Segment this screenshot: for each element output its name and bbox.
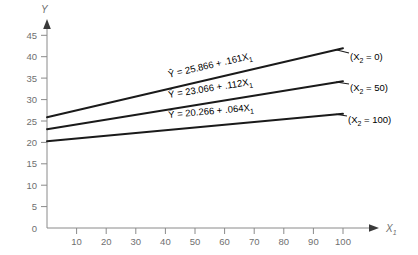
y-tick-label-30: 30 — [26, 94, 37, 105]
y-tick-label-10: 10 — [26, 180, 37, 191]
x-axis-title: X1 — [385, 223, 397, 236]
y-axis-arrow-icon — [43, 19, 51, 29]
x-tick-label-10: 10 — [71, 236, 82, 247]
x-tick-label-80: 80 — [279, 236, 290, 247]
x-axis-arrow-icon — [369, 224, 379, 232]
y-tick-label-20: 20 — [26, 137, 37, 148]
group-label-x2-0: (X2 = 0) — [350, 46, 383, 64]
group-label-x2-50: (X2 = 50) — [350, 77, 388, 95]
x-tick-label-50: 50 — [190, 236, 201, 247]
plot-canvas: 45 40 35 30 25 20 15 10 5 0 10 20 30 40 … — [0, 0, 418, 255]
x-tick-label-20: 20 — [101, 236, 112, 247]
y-tick-label-0: 0 — [32, 223, 37, 234]
group-label-x2-100: (X2 = 100) — [348, 109, 391, 127]
leader-line-x2-50 — [336, 82, 349, 84]
y-tick-label-40: 40 — [26, 51, 37, 62]
leader-line-x2-0 — [336, 50, 349, 53]
regression-lines-chart: 45 40 35 30 25 20 15 10 5 0 10 20 30 40 … — [0, 0, 418, 255]
y-tick-label-25: 25 — [26, 116, 37, 127]
x-tick-label-100: 100 — [335, 236, 351, 247]
y-tick-label-5: 5 — [32, 201, 37, 212]
x-tick-label-40: 40 — [160, 236, 171, 247]
y-axis-title: Y — [41, 4, 49, 15]
y-tick-label-15: 15 — [26, 158, 37, 169]
y-tick-label-35: 35 — [26, 73, 37, 84]
y-tick-label-45: 45 — [26, 30, 37, 41]
x-tick-label-70: 70 — [249, 236, 260, 247]
x-tick-label-30: 30 — [131, 236, 142, 247]
x-tick-label-90: 90 — [308, 236, 319, 247]
x-tick-label-60: 60 — [219, 236, 230, 247]
